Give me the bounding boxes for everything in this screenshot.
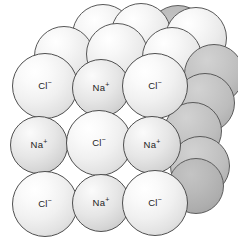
chloride-ion-label: Cl− (148, 198, 162, 208)
sodium-ion-label: Na+ (93, 198, 110, 208)
chloride-ion-label: Cl− (148, 81, 162, 91)
sodium-ion-label: Na+ (93, 83, 110, 93)
crystal-lattice-figure: Cl−Na+Cl−Na+Cl−Na+Cl−Na+Cl− (0, 0, 238, 245)
sodium-ion-sphere: Na+ (10, 116, 68, 174)
chloride-ion-sphere: Cl− (12, 53, 78, 119)
chloride-ion-label: Cl− (38, 199, 52, 209)
sodium-ion-sphere: Na+ (123, 116, 181, 174)
sodium-ion-label: Na+ (31, 140, 48, 150)
chloride-ion-sphere: Cl− (122, 170, 188, 236)
chloride-ion-label: Cl− (92, 138, 106, 148)
chloride-ion-label: Cl− (38, 81, 52, 91)
sodium-ion-label: Na+ (144, 140, 161, 150)
chloride-ion-sphere: Cl− (12, 171, 78, 237)
chloride-ion-sphere: Cl− (122, 53, 188, 119)
